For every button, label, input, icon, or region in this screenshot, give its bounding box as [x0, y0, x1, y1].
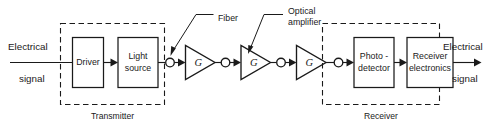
diagram-canvas: Electrical signal Transmitter Driver Lig…	[0, 0, 487, 136]
fiber-callout-label: Fiber	[218, 13, 238, 23]
output-arrowhead	[474, 59, 482, 67]
optical-amplifier-callout-label-line1: Optical	[288, 6, 315, 16]
output-label-line1: Electrical	[443, 41, 483, 52]
optical-amplifier-callout-leader-diagonal	[251, 15, 265, 49]
fiber-connector-1	[166, 58, 175, 67]
light-source-block-label-line2: source	[125, 63, 152, 73]
optical-amplifier-3-gain-label: G	[306, 57, 314, 68]
driver-block-label: Driver	[76, 57, 100, 67]
optical-link-diagram: Electrical signal Transmitter Driver Lig…	[0, 0, 487, 136]
fiber-connector-3	[277, 58, 286, 67]
input-label-line2: signal	[19, 73, 45, 84]
receiver-group-label: Receiver	[364, 111, 398, 121]
fiber-callout-leader-diagonal	[174, 15, 197, 51]
driver-to-light-source-arrowhead	[111, 59, 119, 67]
optical-amplifier-2-gain-label: G	[250, 57, 258, 68]
photodetector-to-receiver-electronics-arrowhead	[400, 59, 408, 67]
input-label-line1: Electrical	[8, 41, 48, 52]
connector-2-arrowhead	[234, 59, 242, 67]
light-source-block-label-line1: Light	[128, 51, 148, 61]
connector-3-arrowhead	[289, 59, 297, 67]
optical-amplifier-callout-label-line2: amplifier	[288, 17, 321, 27]
output-label-line2: signal	[452, 73, 478, 84]
receiver-electronics-block-label-line2: electronics	[409, 63, 452, 73]
fiber-connector-2	[221, 58, 230, 67]
fiber-connector-4	[334, 58, 343, 67]
transmitter-group-label: Transmitter	[91, 111, 134, 121]
optical-amplifier-1-gain-label: G	[195, 57, 203, 68]
photodetector-block-label-line1: Photo -	[360, 51, 388, 61]
connector-4-arrowhead	[347, 59, 355, 67]
receiver-electronics-block-label-line1: Receiver	[413, 51, 448, 61]
photodetector-block-label-line2: detector	[358, 63, 390, 73]
connector-1-arrowhead	[178, 59, 186, 67]
